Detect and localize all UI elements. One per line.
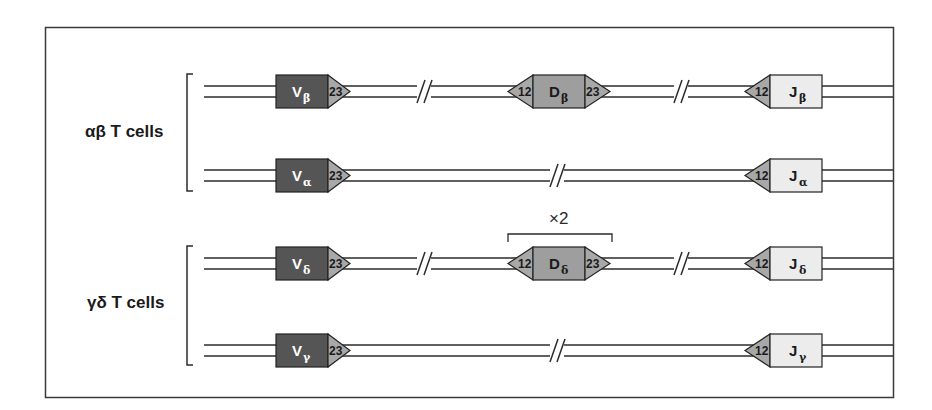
break-mark-icon — [417, 80, 432, 103]
svg-text:23: 23 — [329, 257, 343, 271]
svg-text:V: V — [292, 83, 302, 100]
svg-text:γ: γ — [799, 351, 807, 364]
break-mark-icon — [674, 252, 689, 275]
svg-text:δ: δ — [303, 264, 310, 277]
svg-text:12: 12 — [755, 257, 769, 271]
svg-text:12: 12 — [755, 85, 769, 99]
v-segment: V γ — [276, 334, 328, 367]
svg-text:J: J — [789, 342, 797, 359]
svg-text:V: V — [292, 342, 302, 359]
svg-text:J: J — [789, 255, 797, 272]
svg-text:V: V — [292, 167, 302, 184]
svg-text:β: β — [561, 92, 568, 105]
break-mark-icon — [550, 164, 565, 187]
svg-text:23: 23 — [329, 344, 343, 358]
v-segment: V α — [276, 159, 328, 192]
svg-text:α: α — [303, 176, 312, 189]
locus-beta: V β 23 12 D β 23 — [204, 75, 893, 108]
group-label-alphabeta: αβ T cells — [85, 122, 163, 141]
break-mark-icon — [417, 252, 432, 275]
svg-text:β: β — [303, 92, 310, 105]
v-segment: V δ — [276, 247, 328, 280]
svg-text:J: J — [789, 167, 797, 184]
svg-text:α: α — [799, 176, 808, 189]
svg-text:12: 12 — [755, 344, 769, 358]
multiplier-label: ×2 — [549, 209, 568, 228]
svg-text:23: 23 — [329, 169, 343, 183]
svg-text:β: β — [799, 92, 806, 105]
svg-text:12: 12 — [518, 257, 532, 271]
v-segment: V β — [276, 75, 328, 108]
group-label-gammadelta: γδ T cells — [87, 293, 164, 312]
tcr-gene-segment-diagram: αβ T cells γδ T cells V β 23 12 D — [0, 0, 932, 410]
break-mark-icon — [550, 339, 565, 362]
svg-text:23: 23 — [329, 85, 343, 99]
svg-text:23: 23 — [586, 85, 600, 99]
svg-text:J: J — [789, 83, 797, 100]
svg-text:12: 12 — [518, 85, 532, 99]
break-mark-icon — [674, 80, 689, 103]
svg-text:D: D — [549, 255, 560, 272]
svg-text:23: 23 — [586, 257, 600, 271]
svg-text:D: D — [549, 83, 560, 100]
svg-text:δ: δ — [799, 264, 806, 277]
svg-text:12: 12 — [755, 169, 769, 183]
svg-text:δ: δ — [561, 264, 568, 277]
svg-text:V: V — [292, 255, 302, 272]
svg-text:γ: γ — [303, 351, 311, 364]
